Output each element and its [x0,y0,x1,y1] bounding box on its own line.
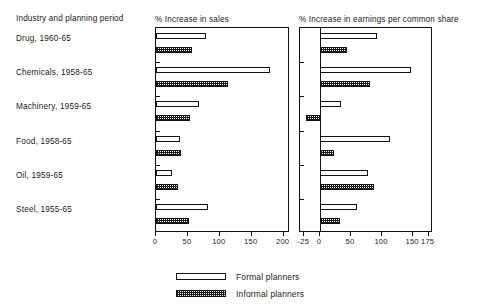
bar-sales-drug-informal [156,47,192,53]
bar-earnings-steel-formal [320,204,357,210]
legend-swatch-informal-icon [176,290,226,297]
plot-area-sales [155,27,289,232]
x-tick-mark [251,232,252,236]
group-separator-tick [156,165,160,166]
x-tick-label: 100 [212,237,225,246]
x-tick-mark [187,232,188,236]
bar-earnings-chemicals-formal [320,67,411,73]
bar-earnings-machinery-informal [306,115,320,121]
x-axis-sales: 050100150200 [155,232,289,254]
bar-earnings-steel-informal [320,218,341,224]
group-separator-tick [300,96,304,97]
figure-paired-bar-charts: Industry and planning period Drug, 1960-… [0,0,478,308]
label-column-header: Industry and planning period [16,14,156,27]
x-tick-label: 150 [244,237,257,246]
bar-earnings-food-informal [320,150,334,156]
bar-earnings-oil-informal [320,184,374,190]
x-tick-label: 0 [317,237,321,246]
group-separator-tick [156,131,160,132]
plot-area-earnings [299,27,432,232]
bar-group-earnings [300,28,431,231]
row-label-column: Industry and planning period Drug, 1960-… [16,14,156,232]
x-tick-mark [303,232,304,236]
bar-sales-oil-formal [156,170,172,176]
legend: Formal planners Informal planners [176,268,304,302]
bar-sales-food-informal [156,150,181,156]
legend-swatch-formal-icon [176,273,226,280]
legend-item-informal: Informal planners [176,285,304,302]
group-separator-tick [300,62,304,63]
row-label-drug: Drug, 1960-65 [16,27,156,61]
x-tick-mark [155,232,156,236]
bar-earnings-drug-formal [320,33,377,39]
bar-earnings-drug-informal [320,47,347,53]
bar-sales-chemicals-formal [156,67,270,73]
row-label-machinery: Machinery, 1959-65 [16,95,156,129]
bar-sales-steel-formal [156,204,208,210]
legend-label-formal: Formal planners [236,272,300,282]
bar-sales-machinery-formal [156,101,199,107]
bar-earnings-food-formal [320,136,390,142]
x-axis-earnings: -25050100150175 [299,232,432,254]
x-tick-label: 100 [374,237,387,246]
bar-earnings-oil-formal [320,170,368,176]
bar-group-sales [156,28,288,231]
bar-earnings-machinery-formal [320,101,341,107]
row-label-steel: Steel, 1955-65 [16,198,156,232]
x-tick-label: 50 [346,237,355,246]
legend-item-formal: Formal planners [176,268,304,285]
x-tick-mark [428,232,429,236]
group-separator-tick [156,62,160,63]
x-tick-mark [381,232,382,236]
bar-earnings-chemicals-informal [320,81,370,87]
group-separator-tick [300,131,304,132]
chart-panel-earnings: % Increase in earnings per common share … [299,14,459,232]
group-separator-tick [300,199,304,200]
x-tick-mark [319,232,320,236]
legend-label-informal: Informal planners [236,289,304,299]
group-separator-tick [300,165,304,166]
x-tick-label: 50 [182,237,191,246]
x-tick-label: 175 [421,237,434,246]
bar-sales-machinery-informal [156,115,190,121]
chart-title-sales: % Increase in sales [155,14,289,27]
bar-sales-drug-formal [156,33,206,39]
group-separator-tick [156,199,160,200]
x-tick-mark [219,232,220,236]
x-tick-label: 150 [405,237,418,246]
chart-panel-sales: % Increase in sales 050100150200 [155,14,289,232]
bar-sales-steel-informal [156,218,189,224]
x-tick-label: 200 [276,237,289,246]
bar-sales-chemicals-informal [156,81,228,87]
row-label-chemicals: Chemicals, 1958-65 [16,61,156,95]
x-tick-mark [350,232,351,236]
row-label-oil: Oil, 1959-65 [16,164,156,198]
x-tick-label: 0 [153,237,157,246]
x-tick-label: -25 [298,237,310,246]
bar-sales-oil-informal [156,184,178,190]
group-separator-tick [156,96,160,97]
x-tick-mark [412,232,413,236]
row-label-food: Food, 1958-65 [16,130,156,164]
bar-sales-food-formal [156,136,180,142]
x-tick-mark [283,232,284,236]
chart-title-earnings: % Increase in earnings per common share [299,14,459,27]
